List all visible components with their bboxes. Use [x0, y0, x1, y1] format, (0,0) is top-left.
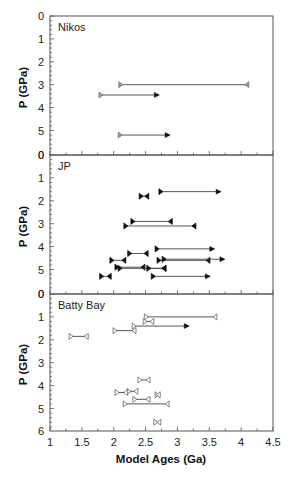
min-age-marker	[155, 246, 159, 252]
y-tick-label: 3	[38, 79, 44, 91]
arrow-head-icon	[210, 246, 215, 251]
age-range	[99, 92, 159, 98]
max-age-marker	[84, 333, 88, 339]
age-range	[133, 396, 150, 402]
min-age-marker	[162, 256, 166, 262]
age-range	[119, 82, 249, 88]
arrow-head-icon	[165, 133, 170, 138]
y-tick-label: 0	[38, 288, 44, 300]
age-range	[131, 218, 172, 224]
panel-label: Batty Bay	[58, 299, 106, 311]
max-age-marker	[144, 250, 148, 256]
panel-label: JP	[58, 160, 71, 172]
min-age-marker	[124, 223, 128, 229]
y-tick-label: 3	[38, 357, 44, 369]
y-tick-label: 5	[38, 264, 44, 276]
y-tick-label: 4	[38, 102, 44, 114]
age-range	[128, 250, 148, 256]
y-axis-title: P (GPa)	[17, 344, 29, 385]
age-range	[124, 223, 196, 229]
chart: 0123450NikosP (GPa)0123450JPP (GPa)01234…	[0, 0, 293, 477]
arrow-head-icon	[184, 324, 189, 329]
panel-frame	[50, 155, 273, 294]
x-tick-label: 1	[47, 436, 53, 448]
min-age-marker	[133, 396, 137, 402]
arrow-head-icon	[220, 257, 225, 262]
age-range	[155, 392, 160, 398]
age-range	[144, 314, 217, 320]
x-axis-title: Model Ages (Ga)	[116, 453, 206, 465]
panel-frame	[50, 294, 273, 431]
arrow-head-icon	[205, 274, 210, 279]
age-range	[123, 401, 169, 407]
min-age-marker	[138, 377, 142, 383]
max-age-marker	[134, 388, 138, 394]
min-age-marker	[151, 273, 155, 279]
min-age-marker	[157, 257, 161, 263]
y-tick-label: 0	[38, 149, 44, 161]
x-tick-label: 4	[238, 436, 244, 448]
max-age-marker	[168, 218, 172, 224]
arrow-head-icon	[216, 189, 221, 194]
age-range	[139, 193, 149, 199]
y-tick-label: 4	[38, 380, 44, 392]
min-age-marker	[147, 265, 151, 271]
x-tick-label: 4.5	[265, 436, 280, 448]
min-age-marker	[110, 257, 114, 263]
min-age-marker	[139, 193, 143, 199]
y-tick-label: 2	[38, 56, 44, 68]
max-age-marker	[162, 265, 166, 271]
max-age-marker	[124, 389, 128, 395]
age-range	[132, 323, 189, 329]
age-range	[100, 273, 111, 279]
max-age-marker	[150, 318, 154, 324]
age-range	[151, 273, 210, 279]
y-tick-label: 5	[38, 403, 44, 415]
age-range	[69, 333, 88, 339]
y-tick-label: 1	[38, 311, 44, 323]
panel-label: Nikos	[58, 21, 86, 33]
age-range	[127, 388, 138, 394]
min-age-marker	[113, 328, 117, 334]
age-range	[154, 419, 161, 425]
y-tick-label: 6	[38, 425, 44, 437]
max-age-marker	[141, 264, 145, 270]
max-age-marker	[192, 223, 196, 229]
panel-nikos: 0123450NikosP (GPa)	[17, 10, 273, 161]
min-age-marker	[119, 82, 123, 88]
age-range	[115, 389, 128, 395]
min-age-marker	[115, 389, 119, 395]
age-range	[143, 318, 154, 324]
arrow-head-icon	[154, 93, 159, 98]
y-axis-title: P (GPa)	[17, 67, 29, 108]
y-tick-label: 5	[38, 125, 44, 137]
y-tick-label: 4	[38, 241, 44, 253]
min-age-marker	[99, 92, 103, 98]
x-tick-label: 3.5	[202, 436, 217, 448]
max-age-marker	[157, 419, 161, 425]
max-age-marker	[245, 82, 249, 88]
y-tick-label: 2	[38, 334, 44, 346]
y-tick-label: 1	[38, 33, 44, 45]
x-tick-label: 2	[111, 436, 117, 448]
min-age-marker	[144, 314, 148, 320]
y-axis-title: P (GPa)	[17, 206, 29, 247]
y-tick-label: 3	[38, 218, 44, 230]
y-tick-label: 1	[38, 172, 44, 184]
min-age-marker	[100, 273, 104, 279]
max-age-marker	[146, 377, 150, 383]
max-age-marker	[122, 257, 126, 263]
min-age-marker	[159, 189, 163, 195]
min-age-marker	[69, 333, 73, 339]
x-tick-label: 2.5	[138, 436, 153, 448]
max-age-marker	[146, 396, 150, 402]
min-age-marker	[118, 265, 122, 271]
min-age-marker	[128, 250, 132, 256]
age-range	[110, 257, 126, 263]
panel-frame	[50, 16, 273, 155]
x-tick-label: 3	[174, 436, 180, 448]
chart-panels: 0123450NikosP (GPa)0123450JPP (GPa)01234…	[17, 10, 281, 448]
min-age-marker	[123, 401, 127, 407]
age-range	[159, 189, 221, 195]
max-age-marker	[206, 257, 210, 263]
